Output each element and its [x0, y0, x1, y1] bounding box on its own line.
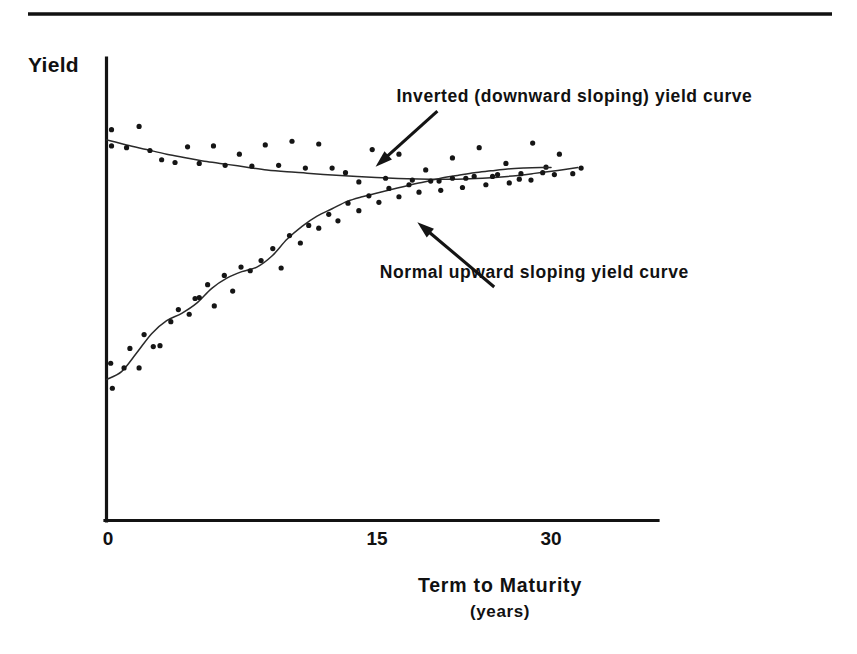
scatter-point	[197, 295, 202, 300]
scatter-point	[326, 212, 331, 217]
scatter-point	[287, 233, 292, 238]
yield-curve-figure: Inverted (downward sloping) yield curveN…	[0, 0, 857, 654]
scatter-point	[552, 172, 557, 177]
scatter-point	[279, 265, 284, 270]
inverted-yield-curve-line	[107, 140, 578, 179]
scatter-point	[263, 142, 268, 147]
scatter-point	[356, 208, 361, 213]
scatter-point	[142, 332, 147, 337]
scatter-point	[136, 365, 141, 370]
scatter-point	[298, 240, 303, 245]
scatter-point	[570, 171, 575, 176]
scatter-point	[517, 177, 522, 182]
scatter-point	[540, 170, 545, 175]
scatter-point	[289, 139, 294, 144]
scatter-point	[345, 201, 350, 206]
scatter-point	[205, 282, 210, 287]
scatter-point	[343, 170, 348, 175]
scatter-point	[463, 176, 468, 181]
scatter-point	[270, 246, 275, 251]
scatter-point	[276, 163, 281, 168]
scatter-point	[370, 147, 375, 152]
scatter-point	[124, 145, 129, 150]
scatter-point	[330, 165, 335, 170]
scatter-point	[428, 178, 433, 183]
scatter-point	[396, 194, 401, 199]
normal-annotation-label: Normal upward sloping yield curve	[380, 262, 689, 282]
scatter-point	[110, 386, 115, 391]
scatter-point	[416, 190, 421, 195]
inverted-annotation-label: Inverted (downward sloping) yield curve	[396, 86, 752, 106]
scatter-point	[507, 180, 512, 185]
x-tick-label-30: 30	[540, 528, 561, 549]
scatter-point	[249, 164, 254, 169]
scatter-point	[172, 160, 177, 165]
y-axis-title: Yield	[28, 53, 79, 76]
scatter-point	[423, 167, 428, 172]
scatter-point	[197, 161, 202, 166]
scatter-point	[109, 143, 114, 148]
scatter-point	[366, 193, 371, 198]
scatter-point	[212, 303, 217, 308]
scatter-point	[376, 200, 381, 205]
scatter-point	[303, 165, 308, 170]
scatter-point	[306, 223, 311, 228]
scatter-point	[383, 176, 388, 181]
scatter-point	[223, 163, 228, 168]
scatter-point	[438, 188, 443, 193]
scatter-point	[109, 127, 114, 132]
scatter-point	[147, 148, 152, 153]
scatter-point	[222, 273, 227, 278]
scatter-point	[316, 226, 321, 231]
scatter-point	[237, 152, 242, 157]
scatter-point	[528, 178, 533, 183]
scatter-point	[490, 174, 495, 179]
scatter-point	[108, 361, 113, 366]
chart-canvas: Inverted (downward sloping) yield curveN…	[0, 0, 857, 654]
x-tick-label-15: 15	[366, 528, 388, 549]
scatter-point	[406, 182, 411, 187]
scatter-point	[187, 312, 192, 317]
scatter-point	[127, 346, 132, 351]
scatter-point	[258, 258, 263, 263]
scatter-point	[472, 174, 477, 179]
scatter-point	[503, 161, 508, 166]
scatter-point	[238, 264, 243, 269]
scatter-point	[518, 171, 523, 176]
x-axis-subtitle: (years)	[470, 602, 530, 621]
series-group	[107, 124, 584, 185]
scatter-point	[136, 124, 141, 129]
scatter-point	[159, 157, 164, 162]
scatter-point	[230, 289, 235, 294]
scatter-point	[579, 165, 584, 170]
scatter-point	[530, 141, 535, 146]
scatter-point	[157, 343, 162, 348]
inverted-annotation-leader-line	[386, 111, 437, 157]
series-layer	[107, 124, 584, 391]
scatter-point	[316, 141, 321, 146]
scatter-point	[460, 185, 465, 190]
x-tick-label-0: 0	[103, 528, 114, 549]
scatter-point	[450, 176, 455, 181]
scatter-point	[211, 143, 216, 148]
scatter-point	[483, 182, 488, 187]
scatter-point	[176, 307, 181, 312]
scatter-point	[168, 319, 173, 324]
scatter-point	[121, 365, 126, 370]
annotation-layer: Inverted (downward sloping) yield curveN…	[376, 86, 753, 287]
scatter-point	[495, 172, 500, 177]
scatter-point	[450, 155, 455, 160]
scatter-point	[248, 268, 253, 273]
scatter-point	[356, 179, 361, 184]
scatter-point	[410, 178, 415, 183]
scatter-point	[386, 186, 391, 191]
scatter-point	[185, 144, 190, 149]
scatter-point	[557, 152, 562, 157]
x-axis-title: Term to Maturity	[418, 574, 582, 596]
scatter-point	[335, 218, 340, 223]
scatter-point	[396, 152, 401, 157]
scatter-point	[151, 344, 156, 349]
scatter-point	[477, 145, 482, 150]
